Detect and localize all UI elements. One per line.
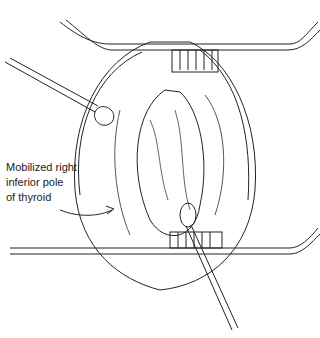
- label-line-3: of thyroid: [6, 190, 77, 205]
- top-retractor: [60, 22, 318, 44]
- label-line-2: inferior pole: [6, 175, 77, 190]
- thyroid-lobe: [137, 90, 204, 236]
- figure-label: Mobilized right inferior pole of thyroid: [6, 160, 77, 205]
- incision-outline: [74, 42, 255, 290]
- bottom-retractor: [10, 228, 318, 248]
- label-line-1: Mobilized right: [6, 160, 77, 175]
- top-retractor-teeth: [172, 50, 218, 72]
- probe-shaft: [186, 226, 232, 330]
- probe-loop: [180, 203, 196, 227]
- left-forceps: [5, 62, 95, 112]
- label-arrow: [60, 210, 112, 215]
